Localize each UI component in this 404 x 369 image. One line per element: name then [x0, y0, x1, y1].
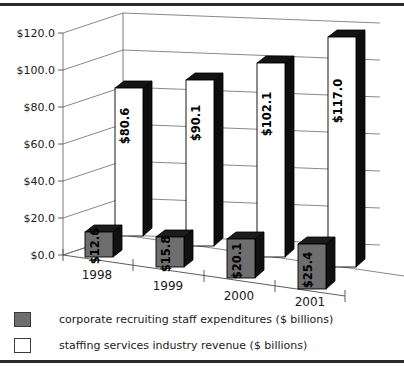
sidegrid-120	[63, 13, 123, 33]
chart-container: $120.0 $100.0 $80.0 $60.0 $40.0 $20.0 $0…	[0, 0, 404, 369]
bar-revenue-1998: $80.6	[115, 81, 152, 236]
y-tick-label: $40.0	[24, 175, 56, 188]
bar-group-2000: $102.1 $20.1	[227, 56, 294, 279]
y-tick-label: $20.0	[24, 212, 56, 225]
bar-value-label: $102.1	[260, 92, 274, 136]
bar-revenue-2001: $117.0	[328, 30, 365, 267]
bar-value-label: $80.6	[118, 108, 132, 144]
bar-value-label: $25.4	[301, 252, 315, 288]
bar-front-face	[328, 37, 356, 267]
y-tick-label: $80.0	[24, 101, 56, 114]
bar-side-face	[184, 230, 193, 267]
legend-item-expenditures: corporate recruiting staff expenditures …	[14, 308, 333, 330]
gridline-120	[123, 13, 380, 23]
chart-legend: corporate recruiting staff expenditures …	[0, 306, 404, 358]
bar-value-label: $90.1	[189, 105, 203, 141]
bar-group-1999: $90.1 $15.8	[156, 73, 223, 272]
x-tick-label: 1999	[153, 279, 184, 293]
y-axis-ticks	[58, 33, 63, 255]
bar-value-label: $15.8	[159, 236, 173, 272]
sidegrid-20	[63, 198, 123, 218]
sidegrid-40	[63, 161, 123, 181]
bar-side-face	[143, 81, 152, 236]
y-tick-label: $60.0	[24, 138, 56, 151]
x-tick-label: 2000	[224, 289, 255, 303]
legend-swatch-white	[14, 338, 31, 353]
y-tick-label: $100.0	[17, 64, 56, 77]
bar-side-face	[285, 56, 294, 257]
bar-expenditure-1999: $15.8	[156, 230, 193, 272]
bar-revenue-1999: $90.1	[186, 73, 223, 246]
bar-side-face	[356, 30, 365, 267]
bar-revenue-2000: $102.1	[257, 56, 294, 257]
legend-label: corporate recruiting staff expenditures …	[59, 314, 333, 325]
bar-expenditure-2001: $25.4	[298, 237, 335, 289]
bar-side-face	[255, 232, 264, 278]
bottom-divider-rule	[0, 360, 404, 363]
x-tick-label: 1998	[82, 268, 113, 282]
bar-group-2001: $117.0 $25.4	[298, 30, 365, 289]
y-tick-label: $0.0	[31, 249, 56, 262]
legend-item-revenue: staffing services industry revenue ($ bi…	[14, 334, 307, 356]
bar-expenditure-2000: $20.1	[227, 232, 264, 279]
x-axis-labels: 1998 1999 2000 2001	[82, 268, 326, 306]
bar-group-1998: $80.6 $12.6	[85, 81, 152, 264]
bar-value-label: $12.6	[88, 228, 102, 264]
y-tick-label: $120.0	[17, 27, 56, 40]
sidegrid-60	[63, 124, 123, 144]
bar-chart-3d: $120.0 $100.0 $80.0 $60.0 $40.0 $20.0 $0…	[0, 6, 404, 306]
sidegrid-80	[63, 87, 123, 107]
bar-value-label: $117.0	[331, 79, 345, 123]
y-axis-labels: $120.0 $100.0 $80.0 $60.0 $40.0 $20.0 $0…	[17, 27, 56, 262]
bar-side-face	[326, 237, 335, 289]
x-tick-label: 2001	[295, 295, 326, 306]
legend-label: staffing services industry revenue ($ bi…	[59, 340, 307, 351]
legend-swatch-gray	[14, 312, 31, 327]
bar-side-face	[214, 73, 223, 246]
sidegrid-100	[63, 50, 123, 70]
bar-value-label: $20.1	[230, 243, 244, 279]
bar-expenditure-1998: $12.6	[85, 225, 122, 264]
